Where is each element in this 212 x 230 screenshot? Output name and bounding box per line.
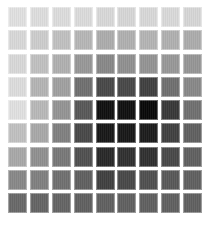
grid-cell (52, 77, 71, 97)
grid-cell (183, 7, 202, 27)
grid-cell (139, 123, 158, 143)
grid-cell (96, 77, 115, 97)
grid-cell (139, 170, 158, 190)
grid-cell (52, 170, 71, 190)
grid-cell (183, 100, 202, 120)
grid-cell (8, 193, 27, 213)
grid-cell (96, 170, 115, 190)
grid-cell (30, 30, 49, 50)
grid-cell (117, 170, 136, 190)
grid-cell (139, 77, 158, 97)
grid-cell (96, 100, 115, 120)
grid-cell (52, 54, 71, 74)
grid-cell (96, 193, 115, 213)
grid-cell (183, 30, 202, 50)
grid-cell (96, 147, 115, 167)
grid-cell (117, 193, 136, 213)
grid-cell (74, 123, 93, 143)
grid-cell (139, 54, 158, 74)
grid-cell (74, 170, 93, 190)
grid-cell (30, 100, 49, 120)
grid-cell (74, 77, 93, 97)
grid-cell (183, 123, 202, 143)
grid-cell (117, 7, 136, 27)
grid-cell (139, 30, 158, 50)
grid-cell (74, 100, 93, 120)
grid-cell (30, 170, 49, 190)
grid-cell (74, 193, 93, 213)
grid-cell (117, 54, 136, 74)
grid-cell (8, 170, 27, 190)
grid-cell (74, 147, 93, 167)
grid-cell (161, 7, 180, 27)
grid-cell (8, 7, 27, 27)
grid-cell (161, 147, 180, 167)
grid-cell (52, 7, 71, 27)
grid-cell (96, 54, 115, 74)
grid-cell (117, 77, 136, 97)
grid-cell (117, 123, 136, 143)
grid-cell (52, 100, 71, 120)
grid-cell (30, 147, 49, 167)
grid-cell (183, 170, 202, 190)
grid-cell (139, 193, 158, 213)
grid-cell (30, 193, 49, 213)
grid-cell (74, 30, 93, 50)
grid-cell (96, 7, 115, 27)
grid-cell (117, 30, 136, 50)
grid-cell (8, 123, 27, 143)
grid-cell (117, 100, 136, 120)
grid-cell (74, 54, 93, 74)
grid-cell (96, 30, 115, 50)
grid-cell (8, 54, 27, 74)
grid-cell (96, 123, 115, 143)
grid-cell (52, 193, 71, 213)
grid-cell (30, 77, 49, 97)
grid-cell (30, 54, 49, 74)
grid-cell (74, 7, 93, 27)
grid-cell (52, 123, 71, 143)
grid-cell (161, 193, 180, 213)
grid-cell (161, 170, 180, 190)
grid-cell (161, 77, 180, 97)
grid-cell (52, 30, 71, 50)
grid-cell (139, 100, 158, 120)
grid-cell (183, 147, 202, 167)
grid-cell (161, 123, 180, 143)
grid-cell (8, 30, 27, 50)
grid-cell (52, 147, 71, 167)
grid-cell (139, 7, 158, 27)
grayscale-grid (8, 7, 202, 213)
grid-cell (139, 147, 158, 167)
grid-cell (8, 147, 27, 167)
grid-cell (117, 147, 136, 167)
grid-cell (183, 54, 202, 74)
grid-cell (30, 123, 49, 143)
grid-cell (161, 100, 180, 120)
grid-cell (183, 193, 202, 213)
grid-cell (161, 54, 180, 74)
grid-cell (161, 30, 180, 50)
grid-cell (183, 77, 202, 97)
grid-cell (8, 100, 27, 120)
grid-cell (8, 77, 27, 97)
grid-cell (30, 7, 49, 27)
